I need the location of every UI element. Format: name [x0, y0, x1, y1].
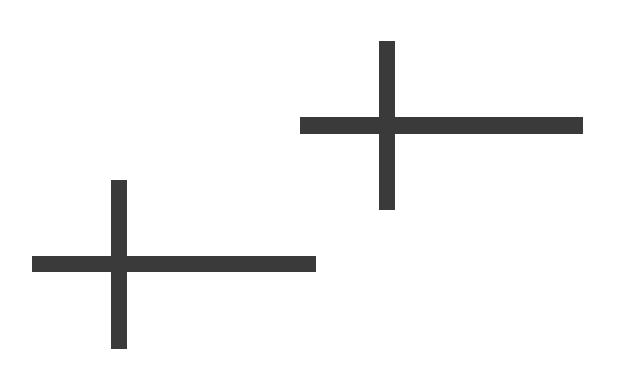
- cross-upper-right-vertical-bar: [379, 41, 395, 210]
- cross-upper-right-horizontal-bar: [300, 117, 583, 134]
- cross-lower-left: [0, 0, 617, 365]
- image-canvas: [0, 0, 617, 365]
- cross-upper-right: [0, 0, 617, 365]
- cross-lower-left-horizontal-bar: [32, 256, 316, 272]
- cross-lower-left-vertical-bar: [111, 180, 127, 349]
